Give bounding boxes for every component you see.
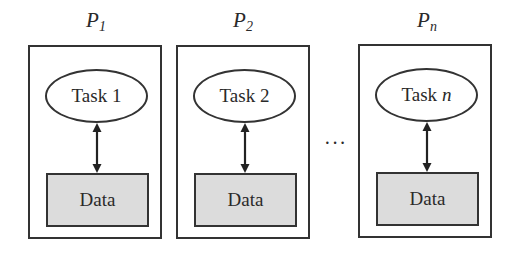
bidirectional-arrow-icon	[238, 123, 252, 173]
processor-label-n: Pn	[397, 8, 457, 35]
data-block-2: Data	[194, 173, 297, 227]
task-node-n: Taskn	[375, 68, 478, 122]
data-block-n: Data	[376, 172, 479, 226]
ellipsis: ···	[324, 132, 347, 155]
processor-label-2: P2	[213, 8, 273, 35]
bidirectional-arrow-icon	[90, 123, 104, 173]
task-node-2: Task 2	[193, 69, 296, 123]
processor-label-1: P1	[66, 8, 126, 35]
bidirectional-arrow-icon	[420, 122, 434, 172]
processor-box-n: Taskn Data	[358, 44, 492, 238]
task-node-1: Task 1	[45, 69, 148, 123]
processor-box-2: Task 2 Data	[176, 45, 310, 239]
processor-box-1: Task 1 Data	[28, 45, 162, 239]
data-block-1: Data	[46, 173, 149, 227]
